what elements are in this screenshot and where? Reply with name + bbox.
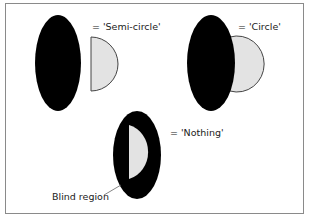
diagram-canvas: = 'Semi-circle' = 'Circle' = 'Nothing' B… xyxy=(0,0,325,223)
circle-label: = 'Circle' xyxy=(238,21,281,32)
semi-circle-shape xyxy=(91,37,118,91)
circle-shape xyxy=(230,36,264,92)
black-ellipse xyxy=(187,15,235,111)
semi-circle-example: = 'Semi-circle' xyxy=(35,15,161,111)
blind-region-label: Blind region xyxy=(52,191,109,202)
black-ellipse xyxy=(35,15,81,111)
circle-example: = 'Circle' xyxy=(187,15,281,111)
semi-circle-label: = 'Semi-circle' xyxy=(92,21,161,32)
nothing-example: = 'Nothing' Blind region xyxy=(52,111,224,202)
nothing-label: = 'Nothing' xyxy=(170,127,224,138)
